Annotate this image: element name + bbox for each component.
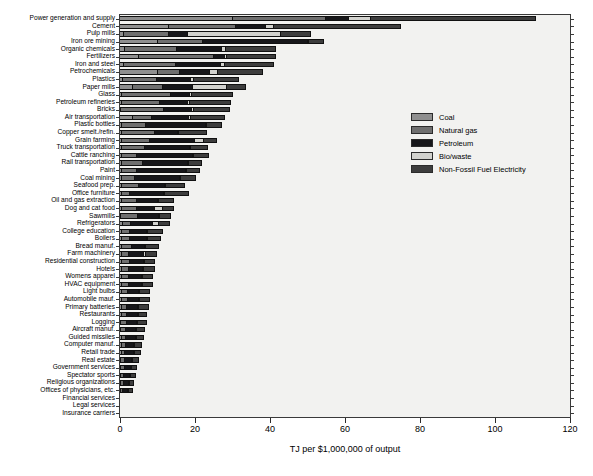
legend-label: Non-Fossil Fuel Electricity	[439, 165, 526, 174]
bar-rows	[120, 15, 570, 417]
bar-segment-non-fossil-fuel-electricity	[191, 115, 225, 120]
y-axis-label: Iron and steel	[75, 60, 115, 67]
stacked-bar	[120, 259, 155, 264]
bar-row	[120, 236, 570, 241]
legend: CoalNatural gasPetroleumBio/wasteNon-Fos…	[411, 111, 576, 176]
y-axis-tick	[570, 72, 574, 73]
legend-swatch-bio-waste	[411, 152, 433, 160]
y-axis-label: Residential construction	[45, 257, 115, 264]
stacked-bar	[120, 327, 145, 332]
bar-row	[120, 274, 570, 279]
bar-row	[120, 77, 570, 82]
y-axis-label: Farm machinery	[67, 249, 115, 256]
bar-row	[120, 380, 570, 385]
bar-row	[120, 16, 570, 21]
y-axis-tick-left	[116, 95, 120, 96]
legend-row: Natural gas	[411, 124, 576, 136]
stacked-bar	[120, 312, 147, 317]
y-axis-tick-left	[116, 413, 120, 414]
bar-segment-natural-gas	[122, 160, 143, 165]
stacked-bar	[120, 62, 274, 67]
bar-segment-natural-gas	[121, 213, 138, 218]
bar-segment-bio-waste	[193, 84, 227, 89]
y-axis-tick-left	[116, 186, 120, 187]
x-axis-tick-label: 80	[415, 424, 425, 434]
y-axis-tick-left	[116, 170, 120, 171]
stacked-bar	[120, 77, 239, 82]
y-axis-tick-left	[116, 64, 120, 65]
bar-segment-non-fossil-fuel-electricity	[166, 183, 185, 188]
bar-row	[120, 39, 570, 44]
bar-segment-non-fossil-fuel-electricity	[192, 92, 233, 97]
y-axis-tick	[570, 368, 574, 369]
legend-label: Natural gas	[439, 126, 477, 135]
bar-row	[120, 84, 570, 89]
bar-row	[120, 54, 570, 59]
y-axis-label: Rail transportation	[61, 158, 115, 165]
y-axis-tick	[570, 193, 574, 194]
y-axis-label: Air transportation	[65, 113, 115, 120]
bar-segment-non-fossil-fuel-electricity	[139, 312, 148, 317]
bar-segment-coal	[120, 69, 158, 74]
y-axis-tick-left	[116, 163, 120, 164]
bar-row	[120, 92, 570, 97]
bar-segment-non-fossil-fuel-electricity	[140, 297, 149, 302]
stacked-bar	[120, 69, 263, 74]
y-axis-label: Bread manuf.	[75, 242, 115, 249]
y-axis-label: Plastic bottles	[74, 120, 115, 127]
bar-segment-non-fossil-fuel-electricity	[138, 320, 147, 325]
y-axis-tick	[570, 284, 574, 285]
legend-row: Bio/waste	[411, 150, 576, 162]
bar-segment-non-fossil-fuel-electricity	[148, 236, 161, 241]
y-axis-label: Retail trade	[81, 348, 115, 355]
y-axis-label: Pulp mills	[87, 29, 115, 36]
y-axis-label: Spectator sports	[67, 371, 115, 378]
y-axis-tick-left	[116, 360, 120, 361]
legend-label: Coal	[439, 113, 454, 122]
bar-segment-petroleum	[180, 69, 210, 74]
y-axis-tick	[570, 201, 574, 202]
y-axis-tick	[570, 49, 574, 50]
y-axis-label: Hotels	[96, 265, 115, 272]
bar-segment-non-fossil-fuel-electricity	[274, 24, 402, 29]
bar-segment-natural-gas	[122, 244, 131, 249]
bar-segment-non-fossil-fuel-electricity	[226, 46, 277, 51]
y-axis-label: Copper smelt./refin.	[57, 128, 115, 135]
bar-segment-natural-gas	[122, 229, 130, 234]
bar-segment-natural-gas	[124, 31, 169, 36]
stacked-bar	[120, 92, 233, 97]
y-axis-label: Primary batteries	[65, 303, 115, 310]
bar-segment-petroleum	[145, 145, 190, 150]
bar-segment-petroleum	[157, 77, 191, 82]
stacked-bar	[120, 138, 217, 143]
y-axis-tick-left	[116, 246, 120, 247]
bar-row	[120, 183, 570, 188]
bar-segment-coal	[120, 39, 158, 44]
y-axis-tick	[570, 383, 574, 384]
bar-segment-petroleum	[135, 175, 180, 180]
bar-row	[120, 244, 570, 249]
x-axis-tick-label: 0	[117, 424, 122, 434]
y-axis-label: Dog and cat food	[65, 204, 115, 211]
bar-segment-petroleum	[176, 62, 221, 67]
x-axis-tick	[495, 418, 496, 423]
y-axis-tick	[570, 178, 574, 179]
y-axis-tick	[570, 262, 574, 263]
y-axis-tick-left	[116, 353, 120, 354]
x-axis-tick	[270, 418, 271, 423]
bar-segment-natural-gas	[122, 175, 135, 180]
bar-segment-petroleum	[163, 84, 193, 89]
bar-segment-coal	[120, 24, 169, 29]
y-axis-tick-left	[116, 375, 120, 376]
y-axis-tick	[570, 390, 574, 391]
y-axis-tick	[570, 406, 574, 407]
bar-segment-natural-gas	[133, 115, 152, 120]
y-axis-tick	[570, 353, 574, 354]
x-axis-tick	[195, 418, 196, 423]
bar-segment-petroleum	[139, 183, 165, 188]
bar-segment-non-fossil-fuel-electricity	[143, 282, 152, 287]
bar-segment-non-fossil-fuel-electricity	[194, 153, 209, 158]
y-axis-tick	[570, 239, 574, 240]
stacked-bar	[120, 107, 230, 112]
y-axis-tick-left	[116, 224, 120, 225]
